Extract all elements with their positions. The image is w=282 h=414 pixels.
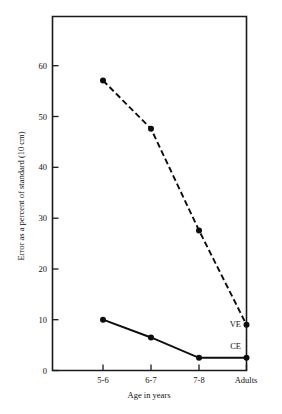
series-ce-point-6-7 <box>148 335 154 341</box>
x-tick-label-7-8: 7-8 <box>193 375 204 385</box>
y-axis-tick-labels: 0 10 20 30 40 50 60 <box>39 61 48 376</box>
y-tick-label-40: 40 <box>39 162 48 172</box>
chart-figure: 0 10 20 30 40 50 60 5-6 6-7 7-8 Adults <box>0 0 282 414</box>
chart-canvas: 0 10 20 30 40 50 60 5-6 6-7 7-8 Adults <box>0 0 282 414</box>
series-ve-point-adults <box>244 322 250 328</box>
y-axis-ticks <box>53 66 59 371</box>
y-tick-label-50: 50 <box>39 112 48 122</box>
series-ce-point-adults <box>244 355 250 361</box>
y-tick-label-30: 30 <box>39 213 48 223</box>
x-tick-label-6-7: 6-7 <box>145 375 156 385</box>
series-ce-point-5-6 <box>100 317 106 323</box>
series-ve-point-6-7 <box>148 126 154 132</box>
x-tick-label-5-6: 5-6 <box>97 375 108 385</box>
x-axis-tick-labels: 5-6 6-7 7-8 Adults <box>97 375 257 385</box>
y-tick-label-60: 60 <box>39 61 48 71</box>
x-tick-label-adults: Adults <box>235 375 258 385</box>
plot-frame <box>53 17 247 371</box>
axis-frame-path <box>53 17 247 371</box>
y-tick-label-20: 20 <box>39 264 48 274</box>
series-ve-line <box>103 81 247 325</box>
series-inline-labels: VE CE <box>230 319 241 351</box>
series-ce-line <box>103 320 247 358</box>
y-tick-label-0: 0 <box>43 366 47 376</box>
series-ce <box>100 317 250 361</box>
y-axis-title: Error as a percent of standard (10 cm) <box>16 131 26 260</box>
y-tick-label-10: 10 <box>39 315 48 325</box>
series-ce-point-7-8 <box>196 355 202 361</box>
series-label-ce: CE <box>230 341 241 351</box>
series-ve-point-5-6 <box>100 78 106 84</box>
x-axis-ticks <box>103 365 247 371</box>
series-label-ve: VE <box>230 319 241 329</box>
series-ve <box>100 78 250 328</box>
series-ve-point-7-8 <box>196 227 202 233</box>
x-axis-title: Age in years <box>128 390 171 400</box>
